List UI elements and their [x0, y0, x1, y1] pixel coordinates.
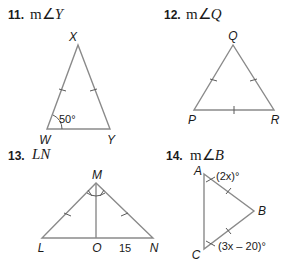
triangle-wxy: X W Y 50°: [39, 30, 116, 147]
vertex-o-label: O: [92, 241, 101, 255]
vertex-l-label: L: [38, 241, 45, 255]
triangle-abc: A B C (2x)° (3x – 20)°: [192, 164, 266, 262]
vertex-q-label: Q: [228, 29, 237, 43]
given-angle-label: 50°: [59, 113, 76, 125]
vertex-a-label: A: [193, 164, 202, 178]
segment-on-label: 15: [119, 242, 131, 254]
triangle-pqr: Q P R: [188, 29, 280, 127]
angle-a-label: (2x)°: [216, 170, 239, 182]
vertex-b-label: B: [258, 204, 266, 218]
vertex-c-label: C: [192, 248, 201, 262]
congruence-tick-icon: [121, 213, 128, 216]
angle-c-label: (3x – 20)°: [218, 240, 266, 252]
figures-canvas: X W Y 50° Q P R M L O N 15 A: [0, 0, 289, 267]
congruence-tick-icon: [59, 89, 66, 91]
triangle-lmn: M L O N 15: [38, 168, 159, 255]
vertex-n-label: N: [150, 241, 159, 255]
vertex-m-label: M: [92, 168, 102, 182]
vertex-r-label: R: [271, 113, 280, 127]
vertex-x-label: X: [68, 30, 78, 44]
vertex-y-label: Y: [107, 133, 116, 147]
vertex-w-label: W: [39, 133, 52, 147]
vertex-p-label: P: [188, 113, 196, 127]
